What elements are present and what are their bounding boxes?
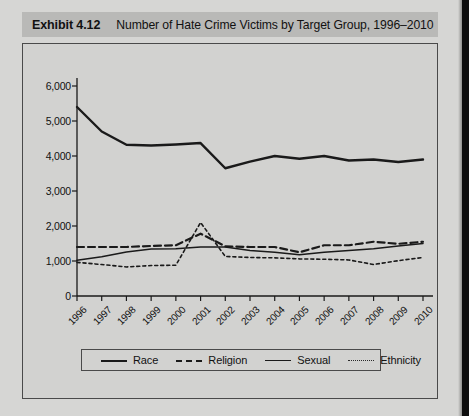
- series-line-race: [77, 107, 423, 168]
- y-tick-label: 4,000: [25, 150, 71, 162]
- page-gutter: [462, 0, 469, 416]
- legend-item-sexual[interactable]: Sexual: [265, 354, 330, 366]
- legend-item-religion[interactable]: Religion: [176, 354, 247, 366]
- y-tick-label: 0: [25, 290, 71, 302]
- legend-label: Religion: [208, 354, 247, 366]
- line-chart-svg: [23, 44, 437, 397]
- chart-legend: RaceReligionSexualEthnicity: [81, 349, 381, 371]
- legend-label: Ethnicity: [380, 354, 421, 366]
- y-tick-label: 2,000: [25, 220, 71, 232]
- legend-item-ethnicity[interactable]: Ethnicity: [348, 354, 421, 366]
- legend-swatch-race: [101, 356, 127, 365]
- chart-frame: 01,0002,0003,0004,0005,0006,000 19961997…: [22, 43, 438, 399]
- y-tick-label: 5,000: [25, 115, 71, 127]
- y-tick-label: 3,000: [25, 185, 71, 197]
- legend-swatch-sexual: [265, 356, 291, 365]
- legend-label: Race: [133, 354, 158, 366]
- exhibit-caption: Number of Hate Crime Victims by Target G…: [116, 18, 433, 32]
- chart-plot-area: [23, 44, 437, 398]
- legend-swatch-religion: [176, 356, 202, 365]
- exhibit-number: Exhibit 4.12: [32, 18, 100, 32]
- y-tick-label: 6,000: [25, 80, 71, 92]
- series-line-ethnicity: [77, 223, 423, 267]
- exhibit-page: Exhibit 4.12 Number of Hate Crime Victim…: [0, 0, 469, 416]
- exhibit-title-band: Exhibit 4.12 Number of Hate Crime Victim…: [22, 12, 438, 37]
- legend-label: Sexual: [297, 354, 330, 366]
- y-tick-label: 1,000: [25, 255, 71, 267]
- legend-item-race[interactable]: Race: [101, 354, 158, 366]
- legend-swatch-ethnicity: [348, 356, 374, 365]
